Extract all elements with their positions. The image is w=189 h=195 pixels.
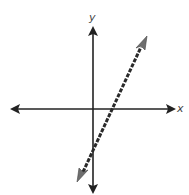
line-upper-arrow-icon bbox=[136, 36, 147, 50]
graph-canvas bbox=[0, 0, 189, 195]
y-axis-label: y bbox=[89, 12, 96, 23]
coordinate-graph: y x bbox=[0, 0, 189, 195]
x-axis-label: x bbox=[177, 103, 184, 114]
y-axis bbox=[88, 26, 98, 194]
